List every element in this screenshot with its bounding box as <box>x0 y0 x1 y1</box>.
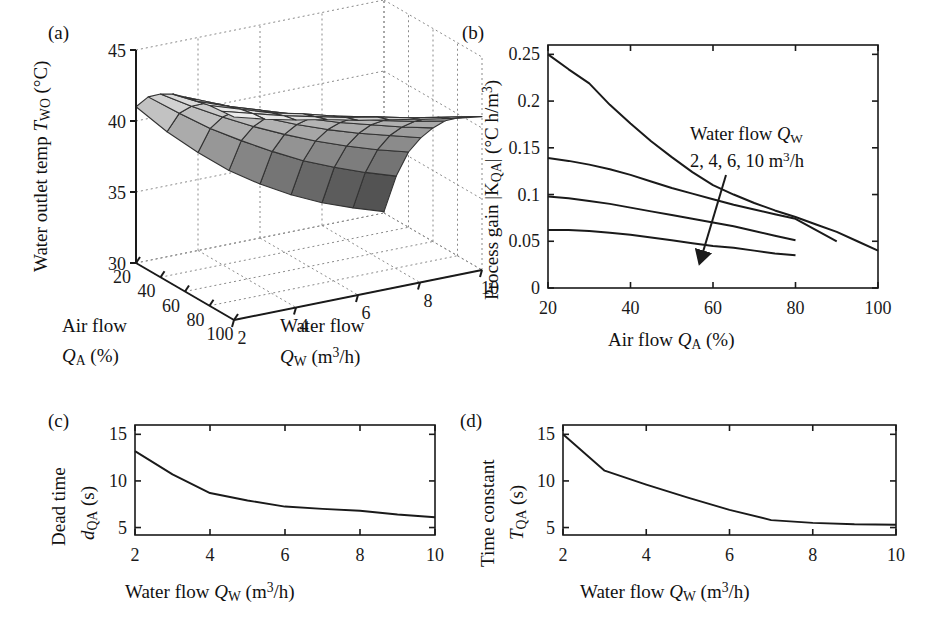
ytick-label: 0.15 <box>509 138 541 158</box>
xtick-label: 4 <box>642 545 651 565</box>
zaxis-label-prefix: Water outlet temp <box>30 132 51 272</box>
b-yaxis-unit-suffix: ) <box>481 80 502 86</box>
ytick-label: 0.2 <box>518 91 541 111</box>
zaxis-label-subscript: WO <box>38 98 53 121</box>
c-yaxis-unit: (s) <box>77 486 98 511</box>
annotation-unit-suffix: /h <box>790 151 804 171</box>
zaxis-label-unit: (°C) <box>30 61 51 99</box>
panel-b-xaxis-label: Air flow QA (%) <box>608 329 735 353</box>
panel-a-xtick <box>161 271 165 277</box>
panel-c-tag: (c) <box>48 410 69 432</box>
series-line <box>548 196 796 240</box>
panel-a-tag: (a) <box>48 22 69 44</box>
panel-a-xaxis-label-line1: Air flow <box>62 315 127 337</box>
svg-c-frame: 24681051015 <box>109 424 444 565</box>
d-yaxis-unit: (s) <box>506 485 527 510</box>
ytick-label: 15 <box>109 424 127 444</box>
b-xaxis-subscript: A <box>691 337 701 352</box>
c-yaxis-subscript: QA <box>85 511 100 531</box>
gridline-floor-water <box>198 251 296 308</box>
series-line <box>548 230 796 255</box>
panel-a-xaxis-label-line2: QA (%) <box>62 345 119 369</box>
panel-a-xtick-label: 40 <box>138 281 156 301</box>
d-xaxis-unit-exponent: 3 <box>722 580 729 595</box>
b-yaxis-symbol: |K <box>481 182 502 200</box>
b-xaxis-unit: (%) <box>701 329 734 350</box>
gridline-floor-water <box>260 238 358 295</box>
xtick-label: 10 <box>426 545 444 565</box>
yaxis-symbol: Q <box>280 346 294 367</box>
panel-a-xtick-label: 60 <box>162 296 180 316</box>
ytick-label: 0 <box>531 278 540 298</box>
c-xaxis-subscript: W <box>228 589 241 604</box>
plot-frame <box>135 425 435 535</box>
ytick-label: 10 <box>109 471 127 491</box>
b-yaxis-unit-exponent: 3 <box>480 86 495 93</box>
ytick-label: 0.1 <box>518 185 541 205</box>
figure-canvas: (a) Water outlet temp TWO (°C) 303540452… <box>0 0 936 639</box>
b-yaxis-unit: (°C h/m <box>481 93 502 159</box>
d-xaxis-subscript: W <box>683 589 696 604</box>
svg-d-series <box>563 434 896 524</box>
series-line <box>135 451 435 517</box>
arrow-shaft <box>700 175 726 262</box>
annotation-values: 2, 4, 6, 10 m <box>690 151 783 171</box>
ytick-label: 5 <box>118 518 127 538</box>
panel-a-ytick-label: 2 <box>238 328 247 348</box>
b-yaxis-prefix: Process gain <box>481 200 502 300</box>
panel-c-yaxis-label-line2: dQA (s) <box>77 486 101 540</box>
d-xaxis-symbol: Q <box>669 581 683 602</box>
d-xaxis-unit-suffix: /h) <box>729 581 750 602</box>
panel-a-ytick <box>232 320 234 327</box>
d-xaxis-unit: (m <box>696 581 722 602</box>
ytick-label: 10 <box>537 471 555 491</box>
c-xaxis-unit: (m <box>241 581 267 602</box>
c-xaxis-unit-exponent: 3 <box>267 580 274 595</box>
series-line <box>563 434 896 524</box>
panel-a-ytick-label: 8 <box>424 291 433 311</box>
yaxis-unit-suffix: /h) <box>339 346 360 367</box>
panel-b-annotation-arrow <box>700 175 726 262</box>
panel-a-xtick <box>185 286 189 292</box>
xtick-label: 20 <box>539 298 557 318</box>
xtick-label: 100 <box>865 298 892 318</box>
panel-a-ztick-label: 40 <box>108 112 126 132</box>
panel-a-ztick-label: 45 <box>108 41 126 61</box>
panel-a-xtick <box>210 300 214 306</box>
ytick-label: 0.25 <box>509 44 541 64</box>
xtick-label: 4 <box>206 545 215 565</box>
xtick-label: 40 <box>622 298 640 318</box>
svg-b-frame: 2040608010000.050.10.150.20.25 <box>509 44 892 318</box>
ytick-label: 15 <box>537 424 555 444</box>
panel-b-annotation-line1: Water flow QW <box>690 124 803 147</box>
yaxis-unit: (m <box>307 346 333 367</box>
panel-a-yaxis-label-line2: QW (m3/h) <box>280 345 360 370</box>
panel-a-xtick-label: 20 <box>113 267 131 287</box>
c-xaxis-symbol: Q <box>214 581 228 602</box>
panel-b-tag: (b) <box>462 22 484 44</box>
panel-b-annotation-line2: 2, 4, 6, 10 m3/h <box>690 149 804 173</box>
panel-a-xtick-label: 100 <box>207 324 234 344</box>
d-yaxis-symbol: T <box>506 529 527 540</box>
ytick-label: 0.05 <box>509 231 541 251</box>
xtick-label: 80 <box>787 298 805 318</box>
xaxis-subscript: A <box>76 353 86 368</box>
xtick-label: 2 <box>559 545 568 565</box>
panel-d-line-chart: (d) Time constant TQA (s) 24681051015 Wa… <box>460 390 936 639</box>
xtick-label: 8 <box>356 545 365 565</box>
annotation-symbol: Q <box>777 124 790 144</box>
c-yaxis-symbol: d <box>77 531 98 541</box>
panel-a-zaxis-label: Water outlet temp TWO (°C) <box>30 61 54 272</box>
b-yaxis-symbol-close: | <box>481 159 502 163</box>
svg-c-series <box>135 451 435 517</box>
xtick-label: 6 <box>281 545 290 565</box>
xtick-label: 8 <box>808 545 817 565</box>
zaxis-label-symbol: T <box>30 121 51 132</box>
annotation-prefix: Water flow <box>690 124 777 144</box>
gridline-floor-water <box>322 226 420 283</box>
panel-c-line-chart: (c) Dead time dQA (s) 24681051015 Water … <box>0 390 460 639</box>
plot-frame <box>563 425 896 535</box>
panel-d-xaxis-label: Water flow QW (m3/h) <box>580 580 750 605</box>
panel-a-xtick-label: 80 <box>187 310 205 330</box>
panel-d-tag: (d) <box>460 410 482 432</box>
